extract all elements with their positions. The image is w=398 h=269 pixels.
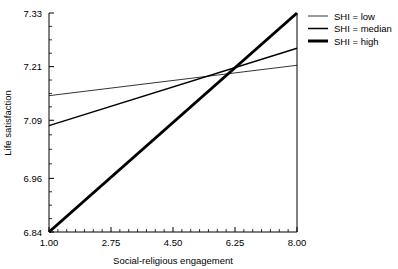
y-tick-label: 6.96 xyxy=(24,173,43,184)
y-axis-title: Life satisfaction xyxy=(2,90,13,155)
x-axis-title: Social-religious engagement xyxy=(113,255,233,266)
x-tick-label: 2.75 xyxy=(102,237,121,248)
x-tick-label: 4.50 xyxy=(164,237,183,248)
x-tick-label: 8.00 xyxy=(288,237,307,248)
chart-figure: 6.846.967.097.217.33 1.002.754.506.258.0… xyxy=(0,0,398,269)
y-tick-label: 7.33 xyxy=(24,8,43,19)
x-tick-label: 1.00 xyxy=(40,237,59,248)
legend-label: SHI = median xyxy=(334,23,392,34)
y-tick-label: 7.09 xyxy=(24,115,43,126)
x-tick-label: 6.25 xyxy=(226,237,245,248)
legend-label: SHI = low xyxy=(334,11,375,22)
y-tick-label: 6.84 xyxy=(24,227,43,238)
line-chart: 6.846.967.097.217.33 1.002.754.506.258.0… xyxy=(0,0,398,269)
y-tick-label: 7.21 xyxy=(24,61,43,72)
legend-label: SHI = high xyxy=(334,36,379,47)
